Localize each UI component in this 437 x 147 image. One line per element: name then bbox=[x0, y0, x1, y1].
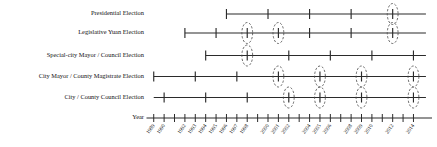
x-axis-tick-label: 2001 bbox=[269, 122, 280, 135]
row-label-0: Presidential Election bbox=[91, 9, 145, 16]
timeline-row bbox=[206, 45, 426, 66]
x-axis-tick-label: 2000 bbox=[259, 122, 270, 135]
x-axis-tick-label: 2002 bbox=[280, 122, 291, 135]
x-axis-tick-label: 2004 bbox=[300, 122, 311, 135]
axis-group: Year198919901992199319941995199619971998… bbox=[132, 113, 432, 134]
timeline-row bbox=[226, 4, 425, 25]
x-axis-tick-label: 2014 bbox=[404, 122, 415, 135]
x-axis-tick-label: 1998 bbox=[238, 122, 249, 135]
timeline-row bbox=[154, 66, 426, 87]
x-axis-tick-label: 1997 bbox=[228, 122, 239, 135]
row-label-3: City Mayor / County Magistrate Election bbox=[39, 72, 145, 79]
x-axis-tick-label: 1992 bbox=[176, 122, 187, 135]
x-axis-tick-label: 1995 bbox=[207, 122, 218, 135]
x-axis-tick-label: 2012 bbox=[384, 122, 395, 135]
axis-title-year: Year bbox=[132, 113, 145, 120]
timeline-row bbox=[154, 87, 426, 108]
timeline-svg: Presidential ElectionLegislative Yuan El… bbox=[0, 0, 437, 147]
row-label-1: Legislative Yuan Election bbox=[78, 28, 145, 35]
row-labels-group: Presidential ElectionLegislative Yuan El… bbox=[39, 9, 145, 100]
timeline-row bbox=[185, 23, 426, 44]
x-axis-tick-label: 1996 bbox=[217, 122, 228, 135]
x-axis-tick-label: 2009 bbox=[352, 122, 363, 135]
x-axis-tick-label: 2005 bbox=[311, 122, 322, 135]
x-axis-tick-label: 1989 bbox=[145, 122, 156, 135]
x-axis-tick-label: 2010 bbox=[363, 122, 374, 135]
x-axis-tick-label: 2008 bbox=[342, 122, 353, 135]
election-timeline-chart: Presidential ElectionLegislative Yuan El… bbox=[0, 0, 437, 147]
x-axis-tick-label: 1990 bbox=[155, 122, 166, 135]
x-axis-tick-label: 2006 bbox=[321, 122, 332, 135]
x-axis-tick-label: 1994 bbox=[197, 122, 208, 135]
row-label-4: City / County Council Election bbox=[64, 93, 144, 100]
x-axis-tick-label: 1993 bbox=[186, 122, 197, 135]
rows-group bbox=[154, 4, 426, 109]
row-label-2: Special-city Mayor / Council Election bbox=[47, 51, 145, 58]
